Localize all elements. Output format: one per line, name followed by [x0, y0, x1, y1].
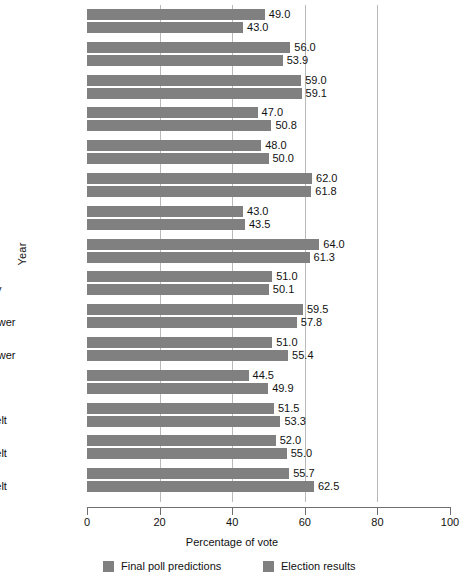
bar-election-results: [87, 252, 310, 263]
bar-election-results: [87, 88, 302, 99]
bar-row: 56.0: [87, 42, 450, 53]
x-tick-100: [450, 507, 451, 515]
category-label: 1992Clinton: [0, 8, 78, 33]
bar-election-results: [87, 284, 269, 295]
bar-row: 57.8: [87, 317, 450, 328]
category-label: 1960Kennedy: [0, 270, 78, 295]
x-tick-40: [232, 507, 233, 515]
category-label: 1972Nixon: [0, 172, 78, 197]
category-label: 1980Reagan: [0, 106, 78, 131]
bar-value-label: 51.0: [276, 336, 297, 348]
bar-value-label: 52.0: [280, 434, 301, 446]
legend-item: Election results: [263, 560, 356, 572]
bar-value-label: 62.5: [318, 480, 339, 492]
x-tick-label-60: 60: [299, 516, 311, 528]
x-tick-label-80: 80: [371, 516, 383, 528]
chart-legend: Final poll predictionsElection results: [0, 560, 464, 580]
category-year: 1952: [0, 336, 78, 349]
bar-row: 49.9: [87, 383, 450, 394]
bar-final-poll-predictions: [87, 435, 276, 446]
category-name: Nixon: [0, 185, 78, 198]
bar-row: 59.1: [87, 88, 450, 99]
bar-value-label: 43.0: [247, 21, 268, 33]
plot-area: 0204060801001992Clinton49.043.01988Bush5…: [87, 5, 450, 502]
category-name: Bush: [0, 53, 78, 66]
category-year: 1976: [0, 139, 78, 152]
bar-row: 43.0: [87, 22, 450, 33]
category-label: 1956Eisenhower: [0, 303, 78, 328]
bar-row: 50.1: [87, 284, 450, 295]
x-tick-20: [160, 507, 161, 515]
category-year: 1988: [0, 41, 78, 54]
bar-row: 55.4: [87, 350, 450, 361]
bar-value-label: 55.4: [292, 349, 313, 361]
bar-row: 62.5: [87, 481, 450, 492]
bar-value-label: 59.5: [307, 303, 328, 315]
legend-label: Final poll predictions: [121, 560, 221, 572]
bar-value-label: 64.0: [323, 238, 344, 250]
bar-value-label: 51.5: [278, 402, 299, 414]
bar-election-results: [87, 55, 283, 66]
category-name: Reagan: [0, 86, 78, 99]
category-label: 1944Roosevelt: [0, 402, 78, 427]
bar-row: 53.3: [87, 416, 450, 427]
legend-label: Election results: [281, 560, 356, 572]
bar-final-poll-predictions: [87, 239, 319, 250]
category-name: Roosevelt: [0, 447, 78, 460]
category-name: Nixon: [0, 217, 78, 230]
bar-value-label: 61.3: [314, 251, 335, 263]
bar-final-poll-predictions: [87, 173, 312, 184]
bar-final-poll-predictions: [87, 304, 303, 315]
bar-value-label: 56.0: [294, 41, 315, 53]
category-name: Eisenhower: [0, 349, 78, 362]
category-year: 1980: [0, 106, 78, 119]
bar-value-label: 51.0: [276, 270, 297, 282]
bar-value-label: 50.0: [273, 152, 294, 164]
bar-row: 47.0: [87, 107, 450, 118]
bar-row: 43.5: [87, 219, 450, 230]
bar-row: 61.3: [87, 252, 450, 263]
category-name: Johnson: [0, 250, 78, 263]
bar-value-label: 48.0: [265, 139, 286, 151]
category-name: Eisenhower: [0, 316, 78, 329]
bar-final-poll-predictions: [87, 468, 289, 479]
bar-election-results: [87, 416, 280, 427]
bar-election-results: [87, 186, 311, 197]
category-label: 1976Carter: [0, 139, 78, 164]
bar-value-label: 43.5: [249, 218, 270, 230]
bar-value-label: 62.0: [316, 172, 337, 184]
category-label: 1940Roosevelt: [0, 434, 78, 459]
bar-row: 52.0: [87, 435, 450, 446]
x-tick-0: [87, 507, 88, 515]
bar-final-poll-predictions: [87, 75, 301, 86]
bar-final-poll-predictions: [87, 271, 272, 282]
category-label: 1952Eisenhower: [0, 336, 78, 361]
category-year: 1960: [0, 270, 78, 283]
bar-row: 61.8: [87, 186, 450, 197]
category-name: Carter: [0, 152, 78, 165]
category-label: 1964Johnson: [0, 238, 78, 263]
bar-final-poll-predictions: [87, 107, 258, 118]
x-tick-label-100: 100: [441, 516, 459, 528]
legend-swatch: [103, 561, 114, 572]
bar-value-label: 49.0: [269, 8, 290, 20]
bar-value-label: 59.0: [305, 74, 326, 86]
x-tick-label-20: 20: [153, 516, 165, 528]
bar-value-label: 55.7: [293, 467, 314, 479]
bar-value-label: 55.0: [291, 447, 312, 459]
x-axis-line: [87, 507, 451, 508]
bar-value-label: 44.5: [253, 369, 274, 381]
legend-swatch: [263, 561, 274, 572]
bar-row: 49.0: [87, 9, 450, 20]
bar-row: 50.8: [87, 120, 450, 131]
category-name: Kennedy: [0, 283, 78, 296]
category-label: 1988Bush: [0, 41, 78, 66]
bar-election-results: [87, 350, 288, 361]
x-tick-label-0: 0: [84, 516, 90, 528]
bar-value-label: 47.0: [262, 106, 283, 118]
bar-value-label: 61.8: [315, 185, 336, 197]
bar-value-label: 43.0: [247, 205, 268, 217]
category-label: 1968Nixon: [0, 205, 78, 230]
x-tick-label-40: 40: [226, 516, 238, 528]
category-label: 1936Roosevelt: [0, 467, 78, 492]
